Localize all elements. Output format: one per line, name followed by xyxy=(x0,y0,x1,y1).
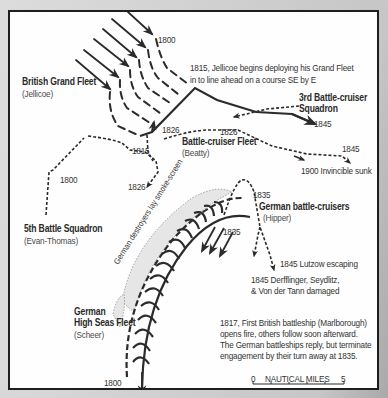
fleet-british-grand-fleet: British Grand Fleet xyxy=(22,76,96,87)
fleet-battle-cruiser-fleet: Battle-cruiser Fleet xyxy=(182,136,256,147)
time-hsf-1835: 1835 xyxy=(223,226,240,237)
scale-start: 0 xyxy=(251,373,255,384)
annotation-jellicoe-deploy-1: 1815, Jellicoe begins deploying his Gran… xyxy=(190,62,354,73)
fleet-5th-battle-squadron: 5th Battle Squadron xyxy=(24,223,102,234)
annotation-marlborough-3: The German battleships reply, but termin… xyxy=(220,339,371,350)
time-hipper-1835: 1835 xyxy=(253,189,270,200)
time-grand-fleet-1800: 1800 xyxy=(158,34,175,45)
time-bc-1845: 1845 xyxy=(342,143,359,154)
annotation-marlborough-2: opens fire, others follow soon afterward… xyxy=(220,328,358,339)
annotation-damaged-1: 1845 Derfflinger, Seydlitz, xyxy=(251,274,339,285)
time-fifth-1826: 1826 xyxy=(128,181,145,192)
time-grand-fleet-1845: 1845 xyxy=(314,118,331,129)
annotation-jellicoe-deploy-2: in to line ahead on a course SE by E xyxy=(190,74,316,85)
smoke-screen xyxy=(113,189,232,327)
map-frame: 1800 British Grand Fleet (Jellicoe) 1815… xyxy=(8,10,379,390)
time-hsf-1800: 1800 xyxy=(104,377,121,388)
fleet-3rd-battle-cruiser-squadron: Squadron xyxy=(299,103,338,114)
grand-fleet-dashed-tracks xyxy=(110,39,188,136)
annotation-marlborough-1: 1817, First British battleship (Marlboro… xyxy=(220,317,367,328)
commander-jellicoe: (Jellicoe) xyxy=(22,88,53,99)
fleet-german-label: German xyxy=(74,306,105,317)
annotation-damaged-2: & Von der Tann damaged xyxy=(251,285,339,296)
annotation-lutzow-escaping: 1845 Lutzow escaping xyxy=(280,258,358,269)
annotation-marlborough-4: engagement by their turn away at 1835. xyxy=(220,350,357,361)
scale-end: 5 xyxy=(341,373,345,384)
commander-scheer: (Scheer) xyxy=(74,329,104,340)
fleet-high-seas-fleet: High Seas Fleet xyxy=(74,317,135,328)
commander-evan-thomas: (Evan-Thomas) xyxy=(24,235,78,246)
time-bc-1826-a: 1826 xyxy=(162,124,179,135)
invincible-marker xyxy=(294,156,304,160)
scale-label: NAUTICAL MILES xyxy=(265,373,329,384)
time-bc-1815: 1815 xyxy=(132,145,149,156)
annotation-invincible-sunk: 1900 Invincible sunk xyxy=(301,165,372,176)
fleet-3rd-battle-cruiser: 3rd Battle-cruiser xyxy=(299,92,367,103)
commander-hipper: (Hipper) xyxy=(263,212,291,223)
commander-beatty: (Beatty) xyxy=(182,147,209,158)
time-fifth-1800: 1800 xyxy=(60,174,77,185)
fleet-german-battle-cruisers: German battle-cruisers xyxy=(259,201,349,212)
